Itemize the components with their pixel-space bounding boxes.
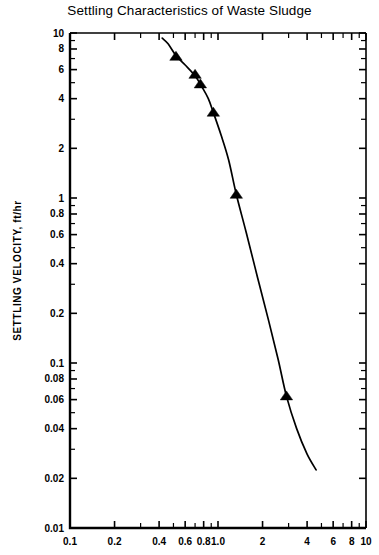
data-curve	[162, 38, 316, 470]
y-tick-label: 6	[58, 64, 64, 75]
axis-frame	[70, 33, 366, 528]
data-markers	[170, 51, 293, 400]
y-axis-tick-labels: 10864210.80.60.40.20.10.080.060.040.020.…	[45, 28, 65, 534]
x-tick-label: 8	[349, 536, 355, 547]
x-tick-label: 0.4	[152, 536, 166, 547]
x-tick-label: 4	[304, 536, 310, 547]
y-tick-label: 0.01	[45, 523, 65, 534]
fitted-curve-path	[162, 38, 316, 470]
y-tick-label: 0.4	[50, 258, 64, 269]
y-tick-label: 0.08	[45, 373, 65, 384]
y-tick-label: 1	[58, 193, 64, 204]
y-tick-label: 2	[58, 143, 64, 154]
y-tick-label: 10	[53, 28, 65, 39]
data-point-marker	[230, 189, 242, 198]
y-tick-label: 0.8	[50, 208, 64, 219]
data-point-marker	[280, 391, 292, 400]
data-point-marker	[194, 79, 206, 88]
x-tick-label: 1.0	[211, 536, 225, 547]
chart-container: Settling Characteristics of Waste Sludge…	[0, 0, 379, 555]
data-point-marker	[170, 51, 182, 60]
y-tick-label: 0.04	[45, 423, 65, 434]
x-tick-label: 10	[360, 536, 372, 547]
x-tick-label: 0.8	[197, 536, 211, 547]
y-tick-label: 0.6	[50, 229, 64, 240]
y-tick-label: 0.2	[50, 308, 64, 319]
plot-area: 0.10.20.40.60.81.0246810 10864210.80.60.…	[0, 0, 379, 555]
y-tick-label: 0.02	[45, 473, 65, 484]
x-tick-label: 0.2	[108, 536, 122, 547]
x-tick-label: 2	[260, 536, 266, 547]
x-tick-label: 6	[330, 536, 336, 547]
x-axis-tick-labels: 0.10.20.40.60.81.0246810	[63, 536, 372, 547]
y-axis-ticks	[70, 33, 366, 528]
x-tick-label: 0.6	[178, 536, 192, 547]
y-tick-label: 0.1	[50, 358, 64, 369]
x-axis-ticks	[70, 33, 366, 528]
data-point-marker	[207, 107, 219, 116]
y-tick-label: 0.06	[45, 394, 65, 405]
y-tick-label: 4	[58, 93, 64, 104]
y-tick-label: 8	[58, 43, 64, 54]
x-tick-label: 0.1	[63, 536, 77, 547]
axis-spine-left-bottom	[70, 33, 366, 528]
